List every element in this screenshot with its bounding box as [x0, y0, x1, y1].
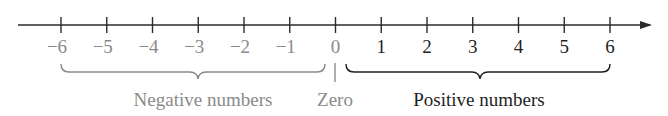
tick-label: −2	[230, 36, 250, 57]
arrow-right-icon	[640, 21, 652, 29]
tick-label: 0	[331, 36, 341, 57]
tick-labels: −6−5−4−3−2−10123456	[47, 36, 615, 57]
tick-label: −3	[184, 36, 204, 57]
number-line-svg: −6−5−4−3−2−10123456 Negative numbers Zer…	[0, 0, 668, 116]
negative-brace	[61, 64, 325, 79]
tick-label: 4	[514, 36, 524, 57]
tick-label: 6	[605, 36, 615, 57]
number-line-diagram: −6−5−4−3−2−10123456 Negative numbers Zer…	[0, 0, 668, 116]
tick-label: −1	[276, 36, 296, 57]
tick-label: 3	[468, 36, 478, 57]
zero-label: Zero	[317, 89, 353, 110]
positive-brace	[346, 64, 610, 79]
tick-label: 5	[560, 36, 570, 57]
tick-label: 1	[377, 36, 387, 57]
tick-label: 2	[422, 36, 432, 57]
negative-numbers-label: Negative numbers	[134, 89, 273, 110]
positive-numbers-label: Positive numbers	[413, 89, 544, 110]
tick-label: −4	[138, 36, 159, 57]
tick-label: −6	[47, 36, 67, 57]
tick-label: −5	[93, 36, 113, 57]
